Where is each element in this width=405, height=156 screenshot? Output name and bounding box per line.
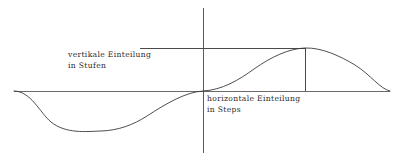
- diagram-canvas: [0, 0, 405, 156]
- vertical-division-label-line1: vertikale Einteilung: [68, 50, 151, 61]
- vertical-division-label: vertikale Einteilung in Stufen: [68, 50, 151, 71]
- horizontal-division-label-line1: horizontale Einteilung: [207, 94, 301, 105]
- sine-diagram: vertikale Einteilung in Stufen horizonta…: [0, 0, 405, 156]
- horizontal-division-label: horizontale Einteilung in Steps: [207, 94, 301, 115]
- horizontal-division-label-line2: in Steps: [207, 105, 301, 116]
- vertical-division-label-line2: in Stufen: [68, 61, 151, 72]
